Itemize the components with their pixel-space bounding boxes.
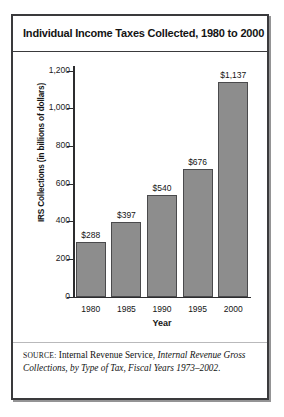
bars-layer: $288$397$540$676$1,137 [73, 71, 251, 297]
source-note: Source: Internal Revenue Service, Intern… [23, 349, 251, 375]
y-axis-tick-label: 0 [65, 291, 70, 301]
plot-region: IRS Collections (in billions of dollars)… [13, 52, 267, 342]
y-axis-tick-label: 600 [56, 178, 70, 188]
bar-value-label: $397 [117, 210, 136, 220]
source-divider [13, 342, 267, 343]
bar-group: $676 [183, 71, 213, 297]
bar-group: $1,137 [218, 71, 248, 297]
source-note-label: Source: [23, 351, 56, 360]
figure-frame: Individual Income Taxes Collected, 1980 … [11, 14, 269, 400]
title-band: Individual Income Taxes Collected, 1980 … [13, 16, 267, 52]
y-axis-tick-label: 200 [56, 253, 70, 263]
x-axis-line [73, 297, 251, 299]
y-axis-tick-label: 1,000 [49, 102, 70, 112]
y-axis-tick-label: 400 [56, 215, 70, 225]
bar [147, 195, 177, 297]
bar-value-label: $1,137 [220, 70, 246, 80]
bar-value-label: $676 [188, 157, 207, 167]
bar [76, 242, 106, 296]
bar [218, 82, 248, 296]
x-axis-category-label: 1990 [153, 304, 172, 314]
bar-group: $288 [76, 71, 106, 297]
y-axis-title: IRS Collections (in billions of dollars) [37, 63, 46, 243]
x-axis-title: Year [73, 318, 251, 328]
x-axis-category-label: 2000 [224, 304, 243, 314]
y-axis-tick-label: 1,200 [49, 65, 70, 75]
bar [183, 169, 213, 296]
x-axis-category-label: 1995 [188, 304, 207, 314]
bar-group: $397 [111, 71, 141, 297]
y-axis-tick-label: 800 [56, 140, 70, 150]
bar-value-label: $288 [81, 230, 100, 240]
bar [111, 222, 141, 297]
bar-group: $540 [147, 71, 177, 297]
x-axis-category-labels: 19801985199019952000 [73, 300, 251, 316]
x-axis-category-label: 1980 [81, 304, 100, 314]
axis-area: 02004006008001,0001,200 $288$397$540$676… [73, 70, 251, 298]
source-note-publisher: Internal Revenue Service, [59, 350, 155, 360]
x-axis-category-label: 1985 [117, 304, 136, 314]
bar-value-label: $540 [153, 183, 172, 193]
chart-title: Individual Income Taxes Collected, 1980 … [23, 27, 264, 39]
